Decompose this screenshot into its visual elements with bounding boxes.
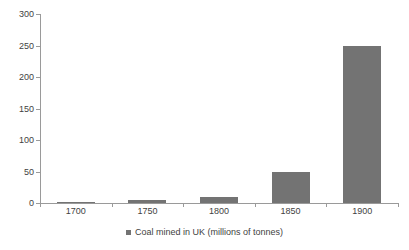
bar[interactable] xyxy=(57,202,95,203)
x-tick-mark xyxy=(40,203,41,207)
x-tick-label: 1800 xyxy=(209,207,229,216)
bar-slot: 1750 xyxy=(112,14,184,203)
bar[interactable] xyxy=(128,200,166,203)
y-tick-label: 0 xyxy=(29,199,34,208)
y-tick-label: 50 xyxy=(24,167,34,176)
plot-area: 050100150200250300 17001750180018501900 xyxy=(40,14,398,203)
x-tick-mark xyxy=(255,203,256,207)
bar-chart: 050100150200250300 17001750180018501900 … xyxy=(0,0,409,250)
bar-slot: 1900 xyxy=(326,14,398,203)
x-tick-label: 1700 xyxy=(66,207,86,216)
chart-legend: Coal mined in UK (millions of tonnes) xyxy=(0,228,409,237)
bar[interactable] xyxy=(272,172,310,204)
bar-slot: 1850 xyxy=(255,14,327,203)
x-tick-mark xyxy=(326,203,327,207)
legend-square-marker xyxy=(126,230,131,235)
y-tick-label: 200 xyxy=(19,73,34,82)
y-tick-label: 150 xyxy=(19,104,34,113)
x-axis-line xyxy=(40,203,398,204)
x-tick-mark xyxy=(183,203,184,207)
y-tick-label: 250 xyxy=(19,41,34,50)
bar-slot: 1700 xyxy=(40,14,112,203)
x-tick-mark xyxy=(398,203,399,207)
x-tick-label: 1900 xyxy=(352,207,372,216)
y-tick-label: 300 xyxy=(19,10,34,19)
x-tick-mark xyxy=(112,203,113,207)
x-tick-label: 1850 xyxy=(281,207,301,216)
bar[interactable] xyxy=(343,46,381,204)
legend-label: Coal mined in UK (millions of tonnes) xyxy=(135,228,283,237)
y-tick-label: 100 xyxy=(19,136,34,145)
bar-slot: 1800 xyxy=(183,14,255,203)
x-tick-label: 1750 xyxy=(137,207,157,216)
bar[interactable] xyxy=(200,197,238,203)
